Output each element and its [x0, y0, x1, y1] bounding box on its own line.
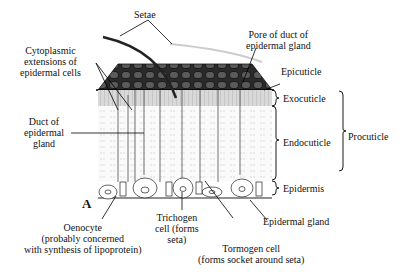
oenocyte-line-2: (probably concerned: [24, 233, 142, 244]
cyto-line-1: Cytoplasmic: [20, 45, 81, 56]
label-setae: Setae: [134, 9, 156, 20]
label-duct-of-epidermal-gland: Duct of epidermal gland: [24, 116, 64, 149]
label-epicuticle: Epicuticle: [281, 66, 322, 77]
label-tormogen-cell: Tormogen cell (forms socket around seta): [198, 243, 304, 265]
panel-letter: A: [82, 196, 91, 212]
trichogen-line-3: seta): [155, 234, 199, 245]
duct-line-1: Duct of: [24, 116, 64, 127]
pore-line-2: epidermal gland: [246, 40, 311, 51]
duct-line-3: gland: [24, 138, 64, 149]
label-oenocyte: Oenocyte (probably concerned with synthe…: [24, 222, 142, 255]
label-epidermal-gland: Epidermal gland: [263, 216, 329, 227]
endocuticle-layer: [98, 106, 272, 181]
label-cytoplasmic-extensions: Cytoplasmic extensions of epidermal cell…: [20, 45, 81, 78]
tormogen-line-1: Tormogen cell: [198, 243, 304, 254]
epicuticle-surface: [98, 64, 272, 90]
pore-line-1: Pore of duct of: [246, 29, 311, 40]
label-endocuticle: Endocuticle: [283, 137, 331, 148]
cyto-line-3: epidermal cells: [20, 67, 81, 78]
duct-line-2: epidermal: [24, 127, 64, 138]
label-pore-of-duct: Pore of duct of epidermal gland: [246, 29, 311, 51]
exocuticle-layer: [98, 90, 272, 106]
oenocyte-line-3: with synthesis of lipoprotein): [24, 244, 142, 255]
label-exocuticle: Exocuticle: [283, 93, 326, 104]
label-procuticle: Procuticle: [348, 131, 389, 142]
trichogen-line-1: Trichogen: [155, 212, 199, 223]
cyto-line-2: extensions of: [20, 56, 81, 67]
trichogen-line-2: cell (forms: [155, 223, 199, 234]
oenocyte-line-1: Oenocyte: [24, 222, 142, 233]
tormogen-line-2: (forms socket around seta): [198, 254, 304, 265]
label-trichogen-cell: Trichogen cell (forms seta): [155, 212, 199, 245]
label-epidermis: Epidermis: [283, 183, 324, 194]
epidermis-cells: [98, 178, 272, 199]
